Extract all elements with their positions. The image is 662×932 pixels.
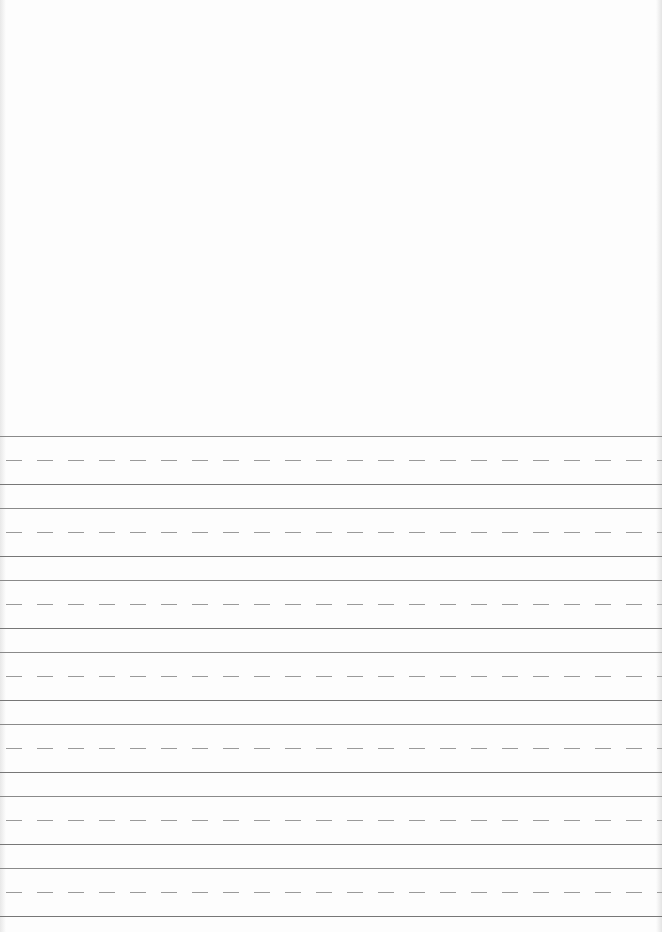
dashed-midline bbox=[0, 676, 662, 677]
bottom-line bbox=[0, 844, 662, 845]
top-line bbox=[0, 508, 662, 509]
writing-line-group bbox=[0, 868, 662, 918]
writing-line-group bbox=[0, 796, 662, 846]
dashed-midline bbox=[0, 460, 662, 461]
writing-line-group bbox=[0, 508, 662, 558]
bottom-line bbox=[0, 772, 662, 773]
top-line bbox=[0, 796, 662, 797]
top-line bbox=[0, 868, 662, 869]
bottom-line bbox=[0, 700, 662, 701]
dashed-midline bbox=[0, 892, 662, 893]
writing-line-group bbox=[0, 436, 662, 486]
top-line bbox=[0, 652, 662, 653]
bottom-line bbox=[0, 484, 662, 485]
bottom-line bbox=[0, 916, 662, 917]
dashed-midline bbox=[0, 532, 662, 533]
bottom-line bbox=[0, 556, 662, 557]
top-line bbox=[0, 724, 662, 725]
dashed-midline bbox=[0, 748, 662, 749]
top-line bbox=[0, 580, 662, 581]
writing-line-group bbox=[0, 580, 662, 630]
dashed-midline bbox=[0, 604, 662, 605]
writing-line-group bbox=[0, 652, 662, 702]
bottom-line bbox=[0, 628, 662, 629]
top-line bbox=[0, 436, 662, 437]
dashed-midline bbox=[0, 820, 662, 821]
drawing-area bbox=[0, 0, 662, 430]
writing-line-group bbox=[0, 724, 662, 774]
